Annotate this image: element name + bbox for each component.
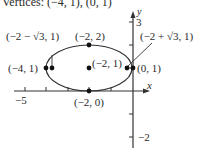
label-focus-left: (−2 − √3, 1) (6, 31, 59, 42)
x-axis-label: x (147, 80, 152, 91)
y-tick-label-neg2: −2 (138, 132, 150, 143)
ellipse-graph (0, 0, 204, 153)
point-focus-right (125, 66, 130, 71)
label-center: (−2, 1) (92, 58, 122, 69)
label-vertex-left: (−4, 1) (8, 63, 38, 74)
point-center (87, 66, 92, 71)
point-vertex-left (44, 66, 49, 71)
point-focus-left (50, 66, 55, 71)
point-covertex-bottom (87, 89, 92, 94)
label-covertex-top: (−2, 2) (75, 31, 105, 42)
label-covertex-bottom: (−2, 0) (74, 97, 104, 108)
y-tick-label-3: 3 (136, 17, 142, 28)
label-vertex-right: (0, 1) (137, 63, 161, 74)
label-focus-right: (−2 + √3, 1) (140, 31, 193, 42)
x-tick-label-neg5: −5 (15, 95, 27, 106)
y-axis-arrow-icon (131, 11, 136, 18)
point-vertex-right (131, 66, 136, 71)
point-covertex-top (87, 43, 92, 48)
